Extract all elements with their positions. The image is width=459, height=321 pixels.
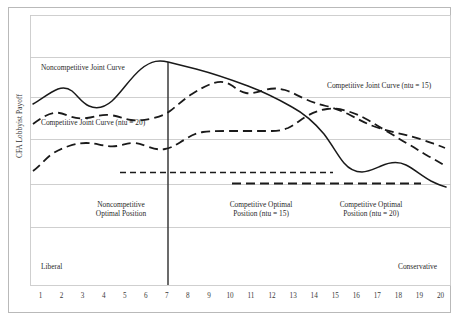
x-tick-label-13: 13	[285, 292, 301, 300]
x-tick-label-12: 12	[264, 292, 280, 300]
region-label-competitive-optimal-20: Competitive Optimal Position (ntu = 20)	[313, 200, 429, 219]
x-tick-label-2: 2	[54, 292, 70, 300]
x-tick-label-17: 17	[369, 292, 385, 300]
x-tick-label-14: 14	[306, 292, 322, 300]
annotation-noncompetitive-joint-curve: Noncompetitive Joint Curve	[41, 63, 125, 72]
x-tick-label-19: 19	[411, 292, 427, 300]
region-label-competitive-optimal-15: Competitive Optimal Position (ntu = 15)	[203, 200, 319, 219]
annotation-competitive-joint-curve-20: Competitive Joint Curve (ntu = 20)	[41, 118, 145, 127]
x-tick-label-4: 4	[96, 292, 112, 300]
region-label-noncompetitive-optimal-line2: Optimal Position	[66, 209, 176, 218]
x-tick-label-18: 18	[390, 292, 406, 300]
region-label-competitive-optimal-15-line2: Position (ntu = 15)	[203, 209, 319, 218]
x-tick-label-7: 7	[159, 292, 175, 300]
x-tick-label-9: 9	[201, 292, 217, 300]
region-label-noncompetitive-optimal-line1: Noncompetitive	[66, 200, 176, 209]
x-tick-label-6: 6	[138, 292, 154, 300]
chart-plot-area	[0, 0, 459, 321]
x-tick-label-8: 8	[180, 292, 196, 300]
region-label-noncompetitive-optimal: Noncompetitive Optimal Position	[66, 200, 176, 219]
chart-figure: CFA Lobbyist Payoff	[0, 0, 459, 321]
x-tick-label-10: 10	[222, 292, 238, 300]
axis-endpoint-conservative: Conservative	[398, 262, 437, 271]
x-tick-label-1: 1	[33, 292, 49, 300]
annotation-competitive-joint-curve-15: Competitive Joint Curve (ntu = 15)	[327, 81, 431, 90]
x-tick-label-3: 3	[75, 292, 91, 300]
x-tick-label-5: 5	[117, 292, 133, 300]
plot-background	[30, 15, 451, 285]
region-label-competitive-optimal-20-line2: Position (ntu = 20)	[313, 209, 429, 218]
axis-endpoint-liberal: Liberal	[41, 262, 62, 271]
x-tick-label-11: 11	[243, 292, 259, 300]
x-tick-label-15: 15	[327, 292, 343, 300]
region-label-competitive-optimal-20-line1: Competitive Optimal	[313, 200, 429, 209]
x-tick-label-16: 16	[348, 292, 364, 300]
x-tick-label-20: 20	[432, 292, 448, 300]
region-label-competitive-optimal-15-line1: Competitive Optimal	[203, 200, 319, 209]
